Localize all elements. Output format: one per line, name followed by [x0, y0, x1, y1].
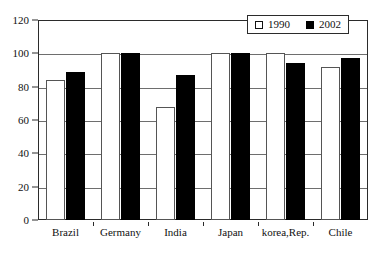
legend-label-1990: 1990 — [268, 19, 290, 30]
y-tick-label: 80 — [18, 81, 29, 92]
open-square-icon — [255, 21, 263, 29]
y-tick-label: 20 — [18, 181, 29, 192]
bar-chile-1990 — [321, 67, 340, 220]
x-tick-label: Japan — [218, 227, 243, 238]
bar-japan-2002 — [231, 53, 250, 220]
filled-square-icon — [306, 21, 314, 29]
y-tick-mark — [32, 20, 38, 21]
x-tick-label: Germany — [100, 227, 141, 238]
y-axis: 020406080100120 — [0, 0, 38, 256]
bar-group — [313, 20, 368, 220]
bar-group — [38, 20, 93, 220]
y-tick-mark — [32, 153, 38, 154]
x-tick-mark — [203, 222, 204, 226]
x-tick-mark — [148, 222, 149, 226]
x-tick-mark — [258, 222, 259, 226]
bar-group — [148, 20, 203, 220]
y-tick-label: 120 — [13, 15, 30, 26]
x-tick-label: India — [164, 227, 187, 238]
legend: 1990 2002 — [247, 15, 349, 34]
bar-germany-2002 — [121, 53, 140, 220]
bar-group — [258, 20, 313, 220]
bar-brazil-1990 — [46, 80, 65, 220]
bar-japan-1990 — [211, 53, 230, 220]
bar-group — [203, 20, 258, 220]
bar-chart: 020406080100120 BrazilGermanyIndiaJapank… — [0, 0, 374, 256]
y-tick-label: 60 — [18, 115, 29, 126]
y-tick-mark — [32, 86, 38, 87]
bar-group — [93, 20, 148, 220]
x-tick-label: Brazil — [52, 227, 79, 238]
bar-korea-rep-2002 — [286, 63, 305, 220]
bar-korea-rep-1990 — [266, 53, 285, 220]
x-tick-label: Chile — [329, 227, 353, 238]
bar-chile-2002 — [341, 58, 360, 220]
bar-brazil-2002 — [66, 72, 85, 220]
bars-layer — [38, 20, 368, 220]
bar-germany-1990 — [101, 53, 120, 220]
legend-entry-1990: 1990 — [255, 19, 290, 30]
legend-entry-2002: 2002 — [306, 19, 341, 30]
bar-india-2002 — [176, 75, 195, 220]
x-tick-label: korea,Rep. — [262, 227, 310, 238]
x-tick-mark — [313, 222, 314, 226]
y-tick-mark — [32, 186, 38, 187]
bar-india-1990 — [156, 107, 175, 220]
y-tick-mark — [32, 220, 38, 221]
y-tick-mark — [32, 120, 38, 121]
y-tick-label: 100 — [13, 48, 30, 59]
legend-label-2002: 2002 — [319, 19, 341, 30]
x-tick-mark — [93, 222, 94, 226]
y-tick-label: 40 — [18, 148, 29, 159]
y-tick-mark — [32, 53, 38, 54]
x-axis: BrazilGermanyIndiaJapankorea,Rep.Chile — [38, 222, 368, 252]
y-tick-label: 0 — [24, 215, 30, 226]
